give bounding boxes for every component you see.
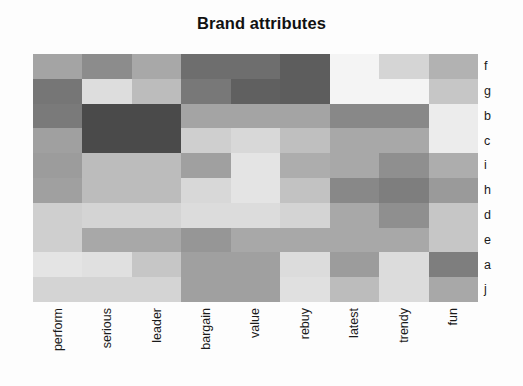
heatmap-cell — [280, 79, 329, 104]
heatmap-cell — [231, 153, 280, 178]
heatmap-cell — [33, 277, 82, 302]
heatmap-cell — [379, 252, 428, 277]
heatmap-grid — [33, 54, 478, 302]
heatmap-cell — [429, 277, 478, 302]
row-label-c: c — [484, 128, 510, 153]
heatmap-cell — [132, 153, 181, 178]
heatmap-cell — [181, 252, 230, 277]
column-label-rebuy: rebuy — [299, 308, 312, 339]
heatmap-cell — [330, 277, 379, 302]
row-label-e: e — [484, 228, 510, 253]
heatmap-cell — [33, 203, 82, 228]
heatmap-cell — [82, 277, 131, 302]
heatmap-cell — [280, 203, 329, 228]
heatmap-cell — [82, 178, 131, 203]
heatmap-cell — [82, 153, 131, 178]
column-label-cell: perform — [33, 306, 82, 382]
heatmap-cell — [33, 79, 82, 104]
heatmap-cell — [379, 79, 428, 104]
heatmap-cell — [280, 54, 329, 79]
column-label-cell: leader — [132, 306, 181, 382]
chart-title: Brand attributes — [0, 14, 523, 33]
column-label-value: value — [249, 308, 262, 338]
heatmap-cell — [280, 277, 329, 302]
heatmap-cell — [181, 178, 230, 203]
column-label-cell: value — [231, 306, 280, 382]
row-label-b: b — [484, 104, 510, 129]
heatmap-cell — [379, 54, 428, 79]
heatmap-cell — [181, 228, 230, 253]
heatmap-figure: Brand attributes fgbcihdeaj performserio… — [0, 0, 523, 386]
column-axis-labels: performseriousleaderbargainvaluerebuylat… — [33, 306, 478, 382]
heatmap-cell — [132, 203, 181, 228]
heatmap-cell — [132, 228, 181, 253]
heatmap-cell — [429, 228, 478, 253]
heatmap-cell — [231, 228, 280, 253]
heatmap-cell — [231, 54, 280, 79]
column-label-cell: latest — [330, 306, 379, 382]
heatmap-cell — [33, 228, 82, 253]
heatmap-cell — [379, 153, 428, 178]
heatmap-cell — [379, 178, 428, 203]
heatmap-cell — [330, 104, 379, 129]
heatmap-cell — [82, 228, 131, 253]
column-label-latest: latest — [348, 308, 361, 338]
heatmap-cell — [132, 128, 181, 153]
heatmap-cell — [231, 79, 280, 104]
heatmap-cell — [379, 203, 428, 228]
row-label-d: d — [484, 203, 510, 228]
heatmap-cell — [132, 54, 181, 79]
heatmap-cell — [82, 252, 131, 277]
heatmap-cell — [231, 203, 280, 228]
heatmap-cell — [181, 54, 230, 79]
heatmap-cell — [280, 104, 329, 129]
heatmap-cell — [82, 203, 131, 228]
heatmap-cell — [379, 128, 428, 153]
heatmap-cell — [181, 104, 230, 129]
row-label-a: a — [484, 252, 510, 277]
heatmap-cell — [33, 104, 82, 129]
heatmap-cell — [429, 178, 478, 203]
column-label-cell: rebuy — [280, 306, 329, 382]
row-label-g: g — [484, 79, 510, 104]
heatmap-cell — [429, 54, 478, 79]
heatmap-cell — [181, 277, 230, 302]
column-label-cell: bargain — [181, 306, 230, 382]
heatmap-cell — [33, 54, 82, 79]
heatmap-cell — [231, 128, 280, 153]
heatmap-cell — [132, 79, 181, 104]
column-label-leader: leader — [150, 308, 163, 343]
column-label-cell: fun — [429, 306, 478, 382]
heatmap-cell — [82, 79, 131, 104]
heatmap-cell — [429, 128, 478, 153]
heatmap-cell — [330, 54, 379, 79]
row-label-i: i — [484, 153, 510, 178]
heatmap-cell — [132, 178, 181, 203]
heatmap-cell — [33, 252, 82, 277]
heatmap-cell — [231, 252, 280, 277]
column-label-bargain: bargain — [200, 308, 213, 350]
heatmap-cell — [181, 128, 230, 153]
column-label-perform: perform — [51, 308, 64, 351]
heatmap-cell — [379, 104, 428, 129]
heatmap-cell — [429, 153, 478, 178]
heatmap-cell — [231, 277, 280, 302]
heatmap-cell — [330, 203, 379, 228]
heatmap-cell — [330, 252, 379, 277]
heatmap-cell — [330, 178, 379, 203]
column-label-trendy: trendy — [398, 308, 411, 343]
column-label-fun: fun — [447, 308, 460, 325]
heatmap-cell — [231, 178, 280, 203]
heatmap-cell — [132, 104, 181, 129]
heatmap-cell — [82, 54, 131, 79]
heatmap-cell — [82, 104, 131, 129]
heatmap-cell — [330, 153, 379, 178]
heatmap-cell — [429, 252, 478, 277]
heatmap-cell — [181, 79, 230, 104]
heatmap-cell — [33, 128, 82, 153]
heatmap-cell — [429, 203, 478, 228]
column-label-serious: serious — [101, 308, 114, 348]
heatmap-cell — [280, 228, 329, 253]
heatmap-cell — [330, 228, 379, 253]
heatmap-cell — [132, 252, 181, 277]
